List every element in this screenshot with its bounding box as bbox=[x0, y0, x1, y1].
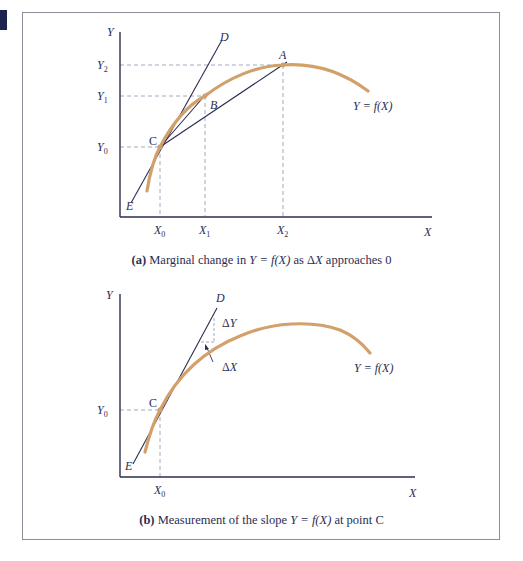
panel-b-y-axis-label: Y bbox=[106, 288, 114, 302]
panel-b-curve bbox=[145, 324, 370, 452]
panel-a-x-axis-label: X bbox=[423, 225, 432, 239]
panel-a-x-tick-X0: X0 bbox=[153, 223, 165, 239]
panel-a: Y D A B C E Y2 Y1 Y0 X0 X1 X2 X Y = f(X) bbox=[97, 25, 432, 239]
panel-a-x-tick-X2: X2 bbox=[276, 223, 288, 239]
panel-a-caption-text-3: approaches 0 bbox=[323, 253, 392, 267]
panel-a-x-tick-X1: X1 bbox=[198, 223, 210, 239]
panel-a-point-A-marker bbox=[281, 63, 286, 68]
panel-a-caption: (a) Marginal change in Y = f(X) as ΔX ap… bbox=[0, 253, 523, 268]
panel-a-point-E-label: E bbox=[125, 199, 134, 213]
panel-a-point-D-label: D bbox=[219, 30, 229, 44]
panel-a-caption-text: Marginal change in bbox=[146, 253, 249, 267]
panel-b-x-axis-label: X bbox=[408, 486, 417, 500]
panel-b: Y D C E ΔY ΔX Y0 X0 X Y = f(X) bbox=[97, 288, 417, 500]
panel-b-caption-text-2: at point C bbox=[331, 513, 383, 527]
panel-b-y-tick-Y0: Y0 bbox=[97, 403, 108, 419]
panel-a-caption-math-2: X bbox=[315, 253, 323, 267]
panel-b-x-tick-X0: X0 bbox=[153, 483, 165, 499]
panel-b-caption-math: Y = f(X) bbox=[290, 513, 331, 527]
panel-a-y-tick-Y2: Y2 bbox=[97, 58, 108, 74]
panel-a-guide-lines bbox=[120, 65, 283, 217]
panel-a-point-B-marker bbox=[203, 94, 208, 99]
panel-a-caption-text-2: as Δ bbox=[290, 253, 315, 267]
panel-a-curve bbox=[147, 65, 368, 191]
panel-a-caption-math: Y = f(X) bbox=[249, 253, 290, 267]
panel-a-y-tick-Y0: Y0 bbox=[97, 140, 108, 156]
panel-b-caption-text: Measurement of the slope bbox=[155, 513, 291, 527]
panel-b-point-C-marker bbox=[157, 407, 162, 412]
panel-a-caption-prefix: (a) bbox=[132, 253, 147, 267]
panel-a-point-B-label: B bbox=[210, 98, 218, 112]
panel-b-delta-pointer-arrowhead bbox=[205, 344, 209, 350]
panel-b-point-E-label: E bbox=[124, 459, 133, 473]
panel-a-y-axis-label: Y bbox=[107, 25, 115, 39]
panel-a-curve-label: Y = f(X) bbox=[353, 99, 392, 113]
figure-diagram: Y D A B C E Y2 Y1 Y0 X0 X1 X2 X Y = f(X) bbox=[0, 0, 523, 561]
panel-b-caption: (b) Measurement of the slope Y = f(X) at… bbox=[0, 513, 523, 528]
panel-b-caption-prefix: (b) bbox=[139, 513, 154, 527]
panel-a-point-A-label: A bbox=[278, 48, 287, 62]
panel-b-delta-x-label: ΔX bbox=[222, 360, 238, 374]
panel-b-point-D-label: D bbox=[215, 291, 225, 305]
panel-a-y-tick-Y1: Y1 bbox=[97, 89, 108, 105]
panel-b-point-C-label: C bbox=[149, 396, 157, 410]
panel-b-delta-y-label: ΔY bbox=[222, 316, 238, 330]
panel-a-point-C-label: C bbox=[149, 134, 157, 148]
panel-a-point-C-marker bbox=[157, 144, 162, 149]
panel-b-curve-label: Y = f(X) bbox=[354, 361, 393, 375]
panel-a-chord-CA bbox=[160, 62, 287, 147]
